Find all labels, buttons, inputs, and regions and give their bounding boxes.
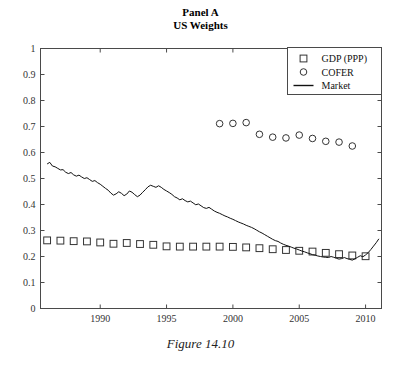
y-axis-tick-label: 0.1 [23, 277, 36, 288]
gdp-ppp-marker [216, 243, 223, 250]
y-axis-tick-label: 0.9 [23, 69, 36, 80]
y-axis-tick-label: 1 [31, 43, 36, 54]
y-axis-tick-label: 0.8 [23, 95, 36, 106]
y-axis-tick-label: 0 [31, 303, 36, 314]
gdp-ppp-marker [123, 240, 130, 247]
legend-label: Market [322, 80, 351, 91]
gdp-ppp-marker [150, 241, 157, 248]
gdp-ppp-marker [110, 240, 117, 247]
y-axis-tick-label: 0.5 [23, 173, 36, 184]
gdp-ppp-marker [84, 238, 91, 245]
chart-series-layer [44, 119, 379, 260]
figure-root: Panel A US Weights 00.10.20.30.40.50.60.… [0, 0, 401, 367]
cofer-marker [283, 135, 290, 142]
cofer-marker [243, 119, 250, 126]
x-axis-tick-label: 1990 [90, 313, 110, 324]
x-axis-tick-label: 2000 [223, 313, 243, 324]
gdp-ppp-marker [190, 243, 197, 250]
x-axis-tick-label: 2010 [356, 313, 376, 324]
gdp-ppp-marker [256, 245, 263, 252]
cofer-marker [230, 120, 237, 127]
cofer-marker [256, 131, 263, 138]
y-axis-tick-label: 0.2 [23, 251, 36, 262]
y-axis-tick-label: 0.4 [23, 199, 36, 210]
gdp-ppp-marker [243, 244, 250, 251]
cofer-marker [336, 139, 343, 146]
x-axis-tick-label: 1995 [157, 313, 177, 324]
cofer-marker [296, 132, 303, 139]
gdp-ppp-marker [70, 238, 77, 245]
legend-label: COFER [322, 67, 355, 78]
x-axis-tick-label: 2005 [289, 313, 309, 324]
gdp-ppp-marker [163, 243, 170, 250]
gdp-ppp-marker [57, 237, 64, 244]
gdp-ppp-marker [283, 247, 290, 254]
chart-legend: GDP (PPP)COFERMarket [288, 48, 382, 95]
gdp-ppp-marker [44, 237, 51, 244]
gdp-ppp-marker [229, 243, 236, 250]
gdp-ppp-marker [336, 251, 343, 258]
gdp-ppp-marker [203, 243, 210, 250]
gdp-ppp-marker [137, 241, 144, 248]
cofer-marker [322, 138, 329, 145]
gdp-ppp-marker [176, 243, 183, 250]
cofer-marker [216, 120, 223, 127]
gdp-ppp-marker [322, 249, 329, 256]
gdp-ppp-marker [349, 252, 356, 259]
y-axis-tick-label: 0.6 [23, 147, 36, 158]
series-cofer [216, 119, 355, 149]
cofer-marker [349, 143, 356, 150]
cofer-marker [269, 134, 276, 141]
y-axis-tick-label: 0.7 [23, 121, 36, 132]
figure-caption: Figure 14.10 [0, 336, 401, 352]
gdp-ppp-marker [97, 239, 104, 246]
y-axis-tick-label: 0.3 [23, 225, 36, 236]
legend-label: GDP (PPP) [322, 53, 367, 65]
gdp-ppp-marker [269, 246, 276, 253]
cofer-marker [309, 135, 316, 142]
chart-plot-area: 00.10.20.30.40.50.60.70.80.9119901995200… [0, 0, 401, 330]
